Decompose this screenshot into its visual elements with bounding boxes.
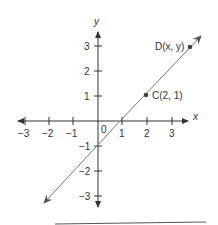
- point-d-label: D(x, y): [155, 41, 184, 52]
- x-tick-label: −1: [66, 128, 78, 139]
- point-c-label: C(2, 1): [152, 90, 183, 101]
- y-tick-label: 1: [84, 91, 90, 102]
- coordinate-plane: −3 −2 −1 1 2 3 x 0 3 2 1 −1 −2 −3 y: [0, 0, 218, 225]
- y-tick-label: −1: [79, 141, 91, 152]
- y-tick-label: 3: [84, 41, 90, 52]
- point-c: C(2, 1): [144, 90, 183, 101]
- y-tick-label: −3: [79, 191, 91, 202]
- y-axis-label: y: [93, 16, 100, 27]
- x-tick-label: 3: [169, 128, 175, 139]
- y-axis: 3 2 1 −1 −2 −3 y: [79, 16, 102, 207]
- x-axis-label: x: [192, 111, 199, 122]
- y-tick-label: −2: [79, 166, 91, 177]
- x-tick-label: −2: [42, 128, 54, 139]
- origin-label: 0: [101, 124, 107, 135]
- x-tick-label: −3: [18, 128, 30, 139]
- y-tick-label: 2: [84, 66, 90, 77]
- bottom-divider: [55, 222, 206, 224]
- x-tick-label: 2: [144, 128, 150, 139]
- x-tick-label: 1: [119, 128, 125, 139]
- x-axis: −3 −2 −1 1 2 3 x 0: [18, 111, 199, 139]
